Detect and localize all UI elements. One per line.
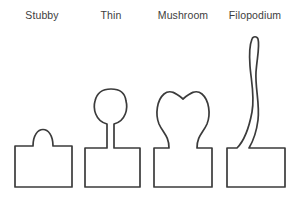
spine-morphology-figure: Stubby Thin Mushroom Filopodium: [0, 0, 300, 206]
spine-label-filopodium: Filopodium: [229, 9, 282, 21]
figure-background: [0, 0, 300, 206]
spine-diagram-canvas: Stubby Thin Mushroom Filopodium: [0, 0, 300, 206]
spine-label-mushroom: Mushroom: [158, 9, 209, 21]
spine-label-thin: Thin: [101, 9, 122, 21]
spine-label-stubby: Stubby: [25, 9, 59, 21]
